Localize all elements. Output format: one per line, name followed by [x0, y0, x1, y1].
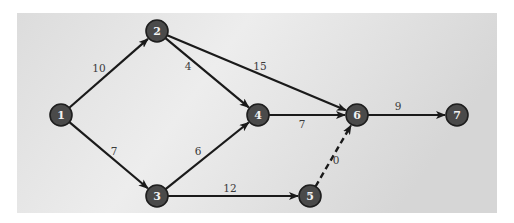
node-label: 1 — [57, 109, 65, 122]
edge-weight-label: 7 — [299, 118, 306, 130]
edge-weight-label: 15 — [253, 60, 266, 72]
node-label: 4 — [254, 109, 262, 122]
edge-weight-label: 9 — [395, 100, 402, 112]
edge-weight-label: 6 — [195, 145, 202, 157]
node-1: 1 — [50, 104, 72, 126]
node-label: 2 — [153, 25, 161, 38]
network-diagram: 107415612709 1234567 — [0, 0, 514, 223]
node-2: 2 — [146, 20, 168, 42]
node-label: 5 — [306, 190, 314, 203]
node-5: 5 — [299, 185, 321, 207]
node-label: 3 — [153, 190, 161, 203]
node-6: 6 — [346, 104, 368, 126]
edge-weight-label: 7 — [111, 145, 118, 157]
edge-weight-label: 12 — [223, 182, 236, 194]
edge-weight-label: 4 — [185, 60, 192, 72]
node-7: 7 — [446, 104, 468, 126]
node-4: 4 — [247, 104, 269, 126]
node-label: 7 — [453, 109, 461, 122]
node-label: 6 — [353, 109, 361, 122]
edge-weight-label: 10 — [92, 62, 105, 74]
edge-weight-label: 0 — [333, 154, 340, 166]
node-3: 3 — [146, 185, 168, 207]
